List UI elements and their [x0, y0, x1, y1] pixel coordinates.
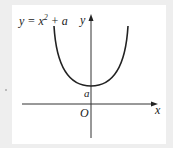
- x-axis-label: x: [155, 104, 160, 116]
- intercept-label: a: [84, 88, 90, 99]
- y-axis-arrow-icon: [89, 14, 94, 21]
- scan-artifact: [5, 89, 7, 91]
- equation-label: y = x2 + a: [19, 14, 68, 27]
- y-axis-label: y: [80, 14, 85, 26]
- origin-label: O: [80, 107, 89, 119]
